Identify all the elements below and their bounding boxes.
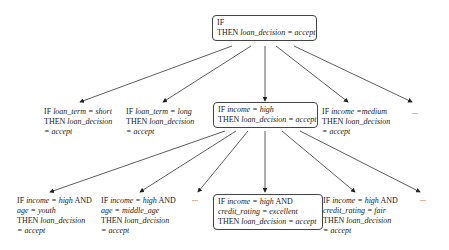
rule-high-middle-age: IF income = high AND age = middle_age TH… — [101, 196, 176, 236]
rule-high-youth: IF income = high AND age = youth THEN lo… — [17, 196, 92, 236]
rule-loan-term-short: IF loan_term = short THEN loan_decision … — [44, 107, 112, 137]
rule-high-credit-fair: IF income = high AND credit_rating = fai… — [323, 196, 398, 236]
ellipsis-level2-a: ... — [192, 194, 198, 204]
edge-root-to-long — [163, 46, 251, 102]
root-then-expr: loan_decision = accept — [240, 28, 315, 37]
ellipsis-level2-b: ... — [420, 194, 426, 204]
rule-loan-term-long: IF loan_term = long THEN loan_decision =… — [126, 107, 194, 137]
rule-income-high: IF income = high THEN loan_decision = ac… — [213, 102, 318, 128]
edge-high-to-youth — [50, 131, 225, 192]
edge-high-to-middle — [140, 131, 236, 192]
edge-root-to-short — [80, 46, 232, 102]
root-then-kw: THEN — [217, 28, 238, 37]
root-if: IF — [217, 18, 312, 28]
ellipsis-level1: ... — [412, 107, 418, 117]
root-rule-node: IF THEN loan_decision = accept — [212, 15, 317, 41]
rule-income-medium: IF income =medium THEN loan_decision = a… — [322, 107, 390, 137]
edge-high-to-ellipsis1 — [198, 131, 248, 192]
rule-high-credit-excellent: IF income = high AND credit_rating = exc… — [213, 194, 323, 230]
